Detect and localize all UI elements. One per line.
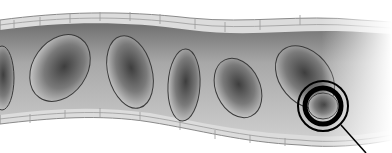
- capillary-illustration: [0, 0, 392, 153]
- fade-overlay: [0, 0, 392, 153]
